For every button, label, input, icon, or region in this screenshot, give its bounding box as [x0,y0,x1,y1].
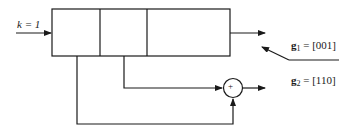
generator-g1-value: = [001] [303,39,336,51]
commutator-switch [262,47,289,60]
shift-register [52,9,230,56]
input-label: k = 1 [17,19,40,30]
generator-g1-sub: 1 [297,44,301,53]
generator-g2-sub: 2 [297,79,301,88]
tap-cell-1 [77,56,233,124]
tap-cell-2 [124,56,222,88]
generator-g1-name: g [291,39,297,51]
generator-g1-label: g1 = [001] [291,40,336,51]
encoder-diagram [0,0,350,137]
adder-plus-icon: + [228,82,233,91]
generator-g2-name: g [291,74,297,86]
generator-g2-value: = [110] [303,74,335,86]
generator-g2-label: g2 = [110] [291,75,336,86]
